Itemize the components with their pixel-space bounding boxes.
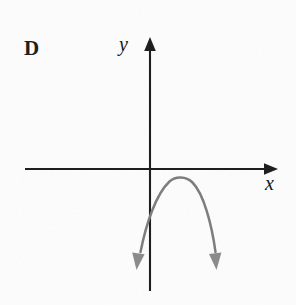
panel-letter-label: D [24,36,40,61]
figure-panel: D y x [0,0,296,305]
y-axis-arrowhead [144,37,156,51]
y-axis-label: y [119,33,128,56]
parabola-curve [141,177,216,252]
curve-left-arrowhead [132,253,144,271]
graph-canvas [0,0,296,305]
curve-right-arrowhead [209,253,221,270]
x-axis-label: x [265,172,274,195]
